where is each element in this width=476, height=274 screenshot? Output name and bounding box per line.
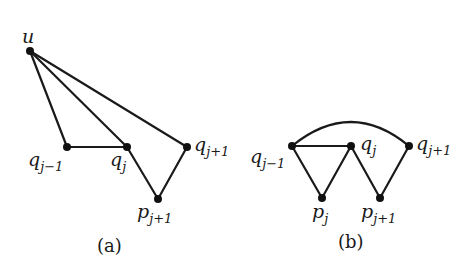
edge-u-qjm1 (30, 51, 67, 147)
label-qjm1: qj−1 (28, 148, 63, 174)
label-pjp1: pj+1 (137, 200, 172, 226)
node-qj (347, 142, 355, 150)
caption-b: (b) (338, 231, 364, 252)
edge-pj-qj (322, 146, 351, 198)
node-qjm1 (288, 142, 296, 150)
label-qj: qj (360, 132, 376, 158)
label-pj: pj (312, 200, 328, 226)
node-qjm1 (63, 143, 71, 151)
node-u (26, 47, 34, 55)
edge-qj-pjp1 (127, 147, 158, 199)
edge-pjp1-qjp1 (380, 146, 409, 198)
node-qj (123, 143, 131, 151)
panel-a: u qj−1 qj qj+1 pj+1 (a) (22, 25, 229, 256)
label-qjp1: qj+1 (194, 133, 229, 159)
panel-b: qj−1 qj qj+1 pj pj+1 (b) (250, 122, 451, 252)
edge-qjm1-pj (292, 146, 322, 198)
edge-pjp1-qjp1 (158, 147, 187, 199)
edge-u-qjp1 (30, 51, 187, 147)
figure-canvas: u qj−1 qj qj+1 pj+1 (a) qj−1 qj (0, 0, 476, 274)
node-qjp1 (183, 143, 191, 151)
node-qjp1 (405, 142, 413, 150)
label-pjp1: pj+1 (361, 200, 396, 226)
node-pjp1 (376, 194, 384, 202)
label-qjp1: qj+1 (416, 132, 451, 158)
caption-a: (a) (97, 235, 122, 256)
label-qjm1: qj−1 (250, 145, 285, 171)
node-pjp1 (154, 195, 162, 203)
label-u: u (22, 25, 34, 47)
label-qj: qj (110, 148, 126, 174)
edge-u-qj (30, 51, 127, 147)
